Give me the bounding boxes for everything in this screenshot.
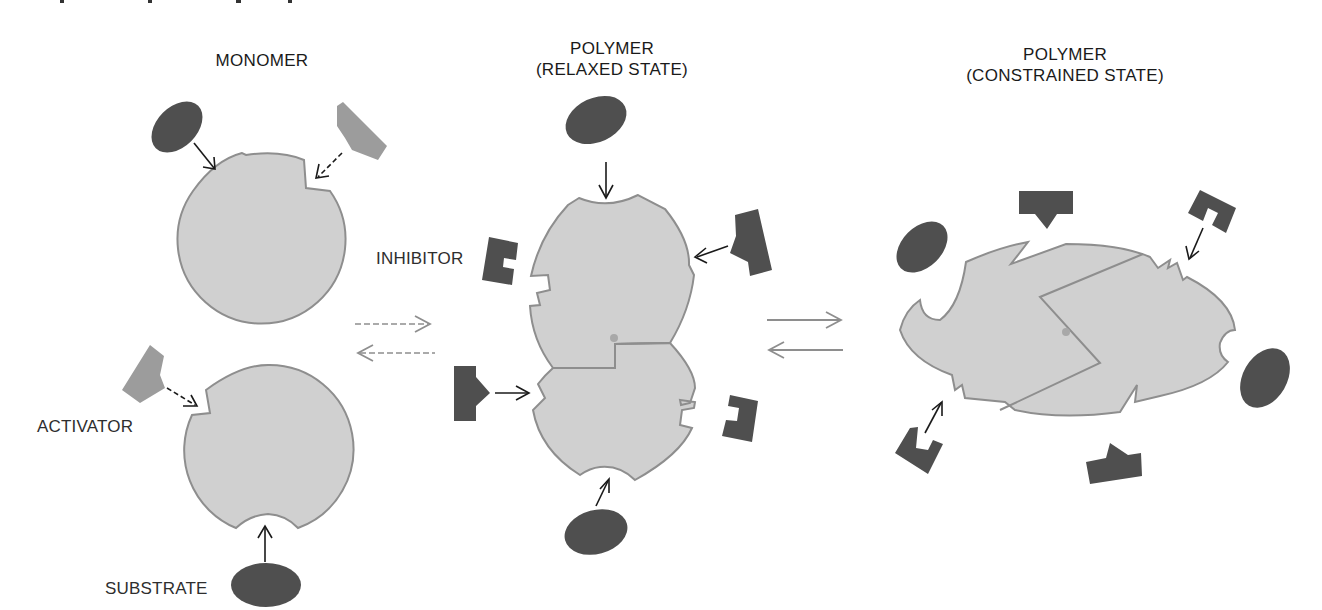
label-substrate: SUBSTRATE [105, 579, 208, 598]
substrate-oval [887, 212, 958, 283]
inhibitor-block [1188, 190, 1236, 233]
inhibitor-block [482, 237, 518, 285]
substrate-oval [559, 502, 632, 561]
equilibrium-relaxed-constrained [767, 312, 843, 358]
title-relaxed-line2: (RELAXED STATE) [536, 60, 688, 79]
monomer-bottom-body [184, 365, 353, 528]
dashed-arrow-icon [167, 388, 195, 405]
monomer-top [142, 92, 387, 324]
dashed-arrow-icon [318, 153, 342, 177]
title-monomer: MONOMER [216, 51, 309, 70]
arrowhead-icon [600, 479, 609, 493]
activator-wedge [122, 345, 165, 403]
inhibitor-wedge [454, 366, 490, 421]
inhibitor-wedge [1086, 443, 1142, 484]
arrowhead-icon [316, 164, 329, 178]
title-relaxed-line1: POLYMER [570, 39, 654, 58]
inhibitor-wedge [1019, 191, 1073, 229]
polymer-relaxed: INHIBITOR [376, 87, 772, 562]
arrow-icon [194, 143, 214, 168]
arrow-icon [925, 403, 941, 433]
cropped-caption-remnant [60, 0, 292, 3]
equilibrium-monomer-relaxed [355, 316, 435, 361]
inhibitor-block [722, 395, 758, 442]
monomer-top-body [178, 153, 346, 324]
label-activator: ACTIVATOR [37, 417, 133, 436]
arrow-icon [596, 481, 608, 506]
substrate-oval [231, 563, 301, 607]
inhibitor-block [895, 427, 943, 474]
monomer-bottom: ACTIVATOR SUBSTRATE [37, 345, 353, 607]
allosteric-diagram: MONOMER POLYMER (RELAXED STATE) POLYMER … [0, 0, 1322, 610]
inhibitor-wedge [730, 209, 772, 276]
central-hub [1062, 328, 1070, 336]
label-inhibitor: INHIBITOR [376, 249, 463, 268]
polymer-constrained [887, 190, 1300, 484]
substrate-oval [558, 87, 635, 154]
central-hub [610, 334, 618, 342]
title-constrained-line2: (CONSTRAINED STATE) [966, 66, 1164, 85]
substrate-oval [1230, 339, 1300, 416]
title-constrained-line1: POLYMER [1023, 45, 1107, 64]
activator-wedge [337, 102, 387, 160]
